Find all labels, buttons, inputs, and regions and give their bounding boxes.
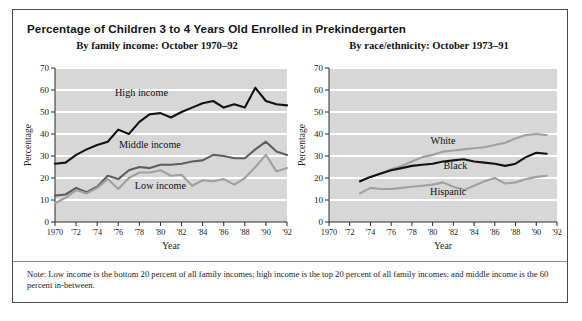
x-tick-label: '90 xyxy=(261,228,271,237)
y-tick-label: 10 xyxy=(40,195,50,205)
x-tick-label: '90 xyxy=(531,228,541,237)
x-tick-label: '92 xyxy=(552,228,562,237)
y-tick-label: 70 xyxy=(314,63,324,73)
x-tick-label: '88 xyxy=(511,228,521,237)
x-tick-label: '72 xyxy=(71,228,81,237)
x-axis-label: Year xyxy=(434,240,453,251)
y-tick-label: 60 xyxy=(40,85,50,95)
series-label: Low income xyxy=(135,180,187,191)
y-tick-label: 50 xyxy=(314,107,324,117)
series-label: Hispanic xyxy=(430,186,467,197)
x-tick-label: '76 xyxy=(113,228,123,237)
series-label: Black xyxy=(444,160,469,171)
x-tick-label: '92 xyxy=(282,228,292,237)
y-axis-label: Percentage xyxy=(22,124,33,166)
x-tick-label: '84 xyxy=(469,228,479,237)
y-tick-label: 30 xyxy=(40,151,50,161)
y-tick-label: 0 xyxy=(45,217,50,227)
x-tick-label: '78 xyxy=(135,228,145,237)
y-tick-label: 20 xyxy=(314,173,324,183)
line-chart-race-ethnicity: 0102030405060701970'72'74'76'78'80'82'84… xyxy=(295,62,563,252)
x-tick-label: 1970 xyxy=(321,228,337,237)
panel-left-plot: 0102030405060701970'72'74'76'78'80'82'84… xyxy=(21,62,293,252)
x-tick-label: '86 xyxy=(490,228,500,237)
x-tick-label: '82 xyxy=(177,228,187,237)
line-chart-family-income: 0102030405060701970'72'74'76'78'80'82'84… xyxy=(21,62,293,252)
y-tick-label: 30 xyxy=(314,151,324,161)
panel-right-subtitle: By race/ethnicity: October 1973–91 xyxy=(295,40,563,51)
x-tick-label: '82 xyxy=(449,228,459,237)
figure-frame: Percentage of Children 3 to 4 Years Old … xyxy=(12,9,568,303)
x-tick-label: '80 xyxy=(156,228,166,237)
x-tick-label: '74 xyxy=(366,228,376,237)
series-label: High income xyxy=(115,87,168,98)
y-tick-label: 70 xyxy=(40,63,50,73)
panel-race-ethnicity: By race/ethnicity: October 1973–91 01020… xyxy=(295,40,563,255)
x-tick-label: 1970 xyxy=(47,228,63,237)
series-label: Middle income xyxy=(119,139,181,150)
y-tick-label: 20 xyxy=(40,173,50,183)
y-tick-label: 40 xyxy=(314,129,324,139)
y-tick-label: 10 xyxy=(314,195,324,205)
x-tick-label: '80 xyxy=(428,228,438,237)
y-axis-label: Percentage xyxy=(296,124,307,166)
x-tick-label: '74 xyxy=(92,228,102,237)
y-tick-label: 40 xyxy=(40,129,50,139)
x-tick-label: '76 xyxy=(386,228,396,237)
panel-left-subtitle: By family income: October 1970–92 xyxy=(21,40,293,51)
x-tick-label: '78 xyxy=(407,228,417,237)
figure-note: Note: Low income is the bottom 20 percen… xyxy=(27,269,553,292)
x-tick-label: '88 xyxy=(240,228,250,237)
page-title: Percentage of Children 3 to 4 Years Old … xyxy=(27,22,406,35)
x-tick-label: '72 xyxy=(345,228,355,237)
y-tick-label: 50 xyxy=(40,107,50,117)
panel-family-income: By family income: October 1970–92 010203… xyxy=(21,40,293,255)
x-axis-label: Year xyxy=(162,240,181,251)
x-tick-label: '84 xyxy=(198,228,208,237)
y-tick-label: 0 xyxy=(319,217,324,227)
panel-right-plot: 0102030405060701970'72'74'76'78'80'82'84… xyxy=(295,62,563,252)
note-separator xyxy=(13,261,567,262)
x-tick-label: '86 xyxy=(219,228,229,237)
series-label: White xyxy=(431,135,456,146)
y-tick-label: 60 xyxy=(314,85,324,95)
